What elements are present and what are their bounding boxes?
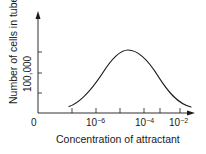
tick-base: 10 [86,117,97,128]
y-axis-title: Number of cells in tube [7,0,19,104]
x-tick-label-1e-2: 10−2 [169,118,188,128]
y-tick-label: 100,000 [22,56,33,92]
response-curve [69,50,191,107]
x-tick-label-1e-6: 10−6 [86,118,105,128]
x-tick-label-zero: 0 [31,118,37,128]
x-axis-arrow-icon [187,111,195,116]
tick-exponent: −4 [146,117,154,124]
tick-exponent: −2 [180,117,188,124]
tick-exponent: −6 [97,117,105,124]
tick-base: 10 [169,117,180,128]
x-axis-title: Concentration of attractant [56,134,180,144]
tick-base: 10 [135,117,146,128]
y-axis-arrow-icon [36,11,41,19]
x-tick-label-1e-4: 10−4 [135,118,154,128]
